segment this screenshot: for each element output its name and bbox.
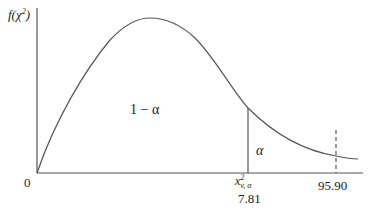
y-axis-label: f(χ2): [8, 8, 30, 21]
chi-square-chart: f(χ2) 0 1 − α α x2v, α 7.81 95.90: [0, 0, 374, 214]
origin-label: 0: [24, 176, 31, 189]
observed-value-label: 95.90: [318, 179, 347, 192]
acceptance-region-label: 1 − α: [130, 103, 159, 117]
critical-value-label: 7.81: [238, 192, 261, 205]
critical-value-symbol: x2v, α: [235, 174, 251, 190]
density-curve: [37, 18, 358, 173]
rejection-region-label: α: [256, 144, 263, 158]
